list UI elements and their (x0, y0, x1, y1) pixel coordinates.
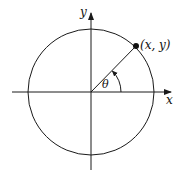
angle-arc (113, 71, 122, 92)
radius-line (91, 46, 136, 92)
unit-circle-diagram: (x, y) x y θ (0, 0, 182, 177)
angle-label: θ (102, 78, 109, 91)
point-marker (133, 43, 139, 49)
x-axis-label: x (166, 93, 173, 107)
y-axis-label: y (79, 5, 87, 19)
point-label: (x, y) (140, 38, 171, 52)
